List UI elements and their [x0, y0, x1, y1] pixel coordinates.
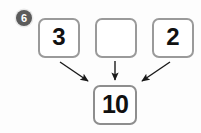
addend-box-1[interactable]: 3: [38, 18, 80, 58]
worksheet-exercise: 6 3 2 10: [0, 0, 201, 133]
sum-box[interactable]: 10: [93, 85, 137, 125]
sum-value: 10: [102, 92, 128, 117]
addend-box-2-empty[interactable]: [95, 18, 137, 58]
exercise-number-badge: 6: [16, 10, 32, 26]
addend-box-3[interactable]: 2: [152, 18, 194, 58]
arrow-right: [142, 62, 170, 81]
addend-value-3: 2: [166, 25, 179, 49]
arrow-left: [60, 62, 88, 81]
addend-value-1: 3: [52, 25, 65, 49]
